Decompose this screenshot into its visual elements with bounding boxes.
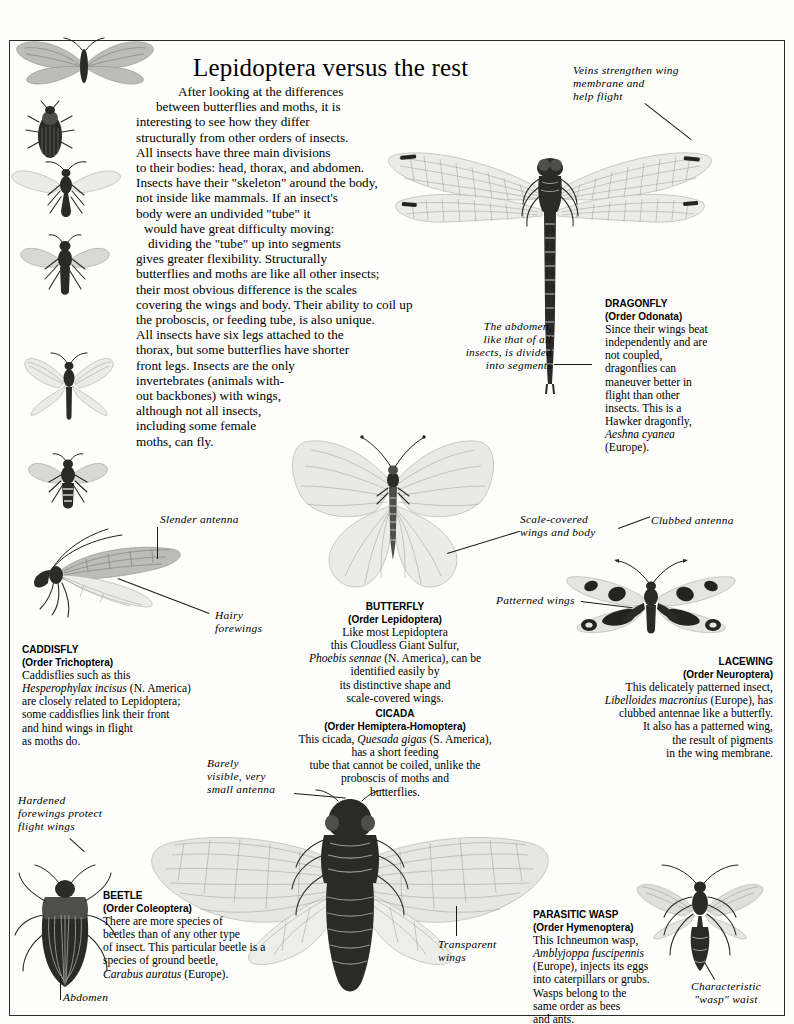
caption-dragonfly-species: Aeshna cyanea bbox=[605, 428, 675, 441]
intro-line: not inside like mammals. If an insect's bbox=[136, 190, 446, 205]
intro-line: including some female bbox=[136, 418, 446, 433]
specimen-strip-wasp bbox=[16, 160, 116, 230]
annotation-abdomen-line2: like that of all bbox=[440, 333, 552, 346]
specimen-strip-bee bbox=[28, 450, 108, 520]
annotation-slender-antenna: Slender antenna bbox=[160, 513, 310, 526]
caption-beetle-order: (Order Coleoptera) bbox=[103, 902, 293, 915]
intro-line: would have great difficulty moving: bbox=[136, 221, 446, 236]
caption-butterfly-species: Phoebis sennae bbox=[309, 652, 381, 665]
caption-lacewing-species: Libelloides macronius bbox=[605, 694, 708, 707]
annotation-clubbed-antenna: Clubbed antenna bbox=[651, 514, 794, 527]
intro-line: out backbones) with wings, bbox=[136, 388, 446, 403]
intro-line: dividing the "tube" up into segments bbox=[136, 236, 446, 251]
caption-beetle: BEETLE (Order Coleoptera) There are more… bbox=[103, 889, 293, 981]
intro-line: interesting to see how they differ bbox=[136, 114, 446, 129]
intro-line: between butterflies and moths, it is bbox=[136, 99, 446, 114]
annotation-barely-visible-antenna: Barely visible, very small antenna bbox=[207, 757, 327, 796]
intro-line: All insects have six legs attached to th… bbox=[136, 327, 446, 342]
caption-butterfly: BUTTERFLY (Order Lepidoptera) Like most … bbox=[283, 600, 507, 705]
annotation-hardened-forewings: Hardened forewings protect flight wings bbox=[18, 794, 138, 833]
specimen-strip-fly bbox=[20, 230, 110, 305]
intro-line: thorax, but some butterflies have shorte… bbox=[136, 342, 446, 357]
intro-line: invertebrates (animals with- bbox=[136, 373, 446, 388]
specimen-strip-lacewing-small bbox=[22, 345, 117, 435]
intro-line: body were an undivided "tube" it bbox=[136, 206, 446, 221]
intro-line: covering the wings and body. Their abili… bbox=[136, 297, 446, 312]
caddisfly-illustration bbox=[30, 520, 220, 645]
annotation-scale-covered-line1: Scale-covered bbox=[520, 513, 670, 526]
intro-line: although not all insects, bbox=[136, 403, 446, 418]
annotation-abdomen-line1: The abdomen, bbox=[440, 320, 552, 333]
beetle-illustration bbox=[20, 855, 110, 1000]
annotation-abdomen-line3: insects, is divided bbox=[440, 346, 552, 359]
caption-caddisfly-order: (Order Trichoptera) bbox=[22, 656, 237, 669]
caption-dragonfly-name: DRAGONFLY bbox=[605, 297, 710, 310]
caption-dragonfly-order: (Order Odonata) bbox=[605, 310, 710, 323]
annotation-veins: Veins strengthen wing membrane and help … bbox=[573, 64, 713, 103]
intro-line: gives greater flexibility. Structurally bbox=[136, 251, 446, 266]
intro-line: butterflies and moths are like all other… bbox=[136, 266, 446, 281]
caption-butterfly-order: (Order Lepidoptera) bbox=[283, 613, 507, 626]
caption-beetle-species: Carabus auratus bbox=[103, 968, 181, 981]
intro-line: to their bodies: head, thorax, and abdom… bbox=[136, 160, 446, 175]
annotation-veins-line3: help flight bbox=[573, 90, 713, 103]
caption-cicada-order: (Order Hemiptera-Homoptera) bbox=[275, 720, 515, 733]
annotation-veins-line1: Veins strengthen wing bbox=[573, 64, 713, 77]
caption-cicada-name: CICADA bbox=[275, 707, 515, 720]
intro-line: the proboscis, or feeding tube, is also … bbox=[136, 312, 446, 327]
caption-butterfly-name: BUTTERFLY bbox=[283, 600, 507, 613]
page-title: Lepidoptera versus the rest bbox=[193, 54, 523, 82]
caption-lacewing-name: LACEWING bbox=[575, 655, 773, 668]
intro-line: their most obvious difference is the sca… bbox=[136, 282, 446, 297]
caption-wasp-species: Amblyjoppa fuscipennis bbox=[533, 947, 644, 960]
annotation-abdomen-line4: into segments bbox=[440, 359, 552, 372]
leader-line-abdomen bbox=[60, 976, 61, 1000]
annotation-scale-covered-line2: wings and body bbox=[520, 526, 670, 539]
annotation-transparent-wings: Transparent wings bbox=[438, 938, 538, 964]
caption-lacewing: LACEWING (Order Neuroptera) This delicat… bbox=[575, 655, 773, 760]
intro-line: All insects have three main divisions bbox=[136, 145, 446, 160]
annotation-patterned-wings: Patterned wings bbox=[496, 594, 606, 607]
intro-paragraph: After looking at the differencesbetween … bbox=[136, 84, 446, 449]
caption-wasp-order: (Order Hymenoptera) bbox=[533, 921, 723, 934]
caption-wasp: PARASITIC WASP (Order Hymenoptera) This … bbox=[533, 908, 723, 1024]
leader-line-transparent-wings bbox=[456, 906, 457, 936]
caption-lacewing-order: (Order Neuroptera) bbox=[575, 668, 773, 681]
caption-caddisfly-name: CADDISFLY bbox=[22, 643, 237, 656]
annotation-veins-line2: membrane and bbox=[573, 77, 713, 90]
annotation-wasp-waist: Characteristic "wasp" waist bbox=[666, 980, 786, 1006]
intro-line: After looking at the differences bbox=[136, 84, 446, 99]
intro-line: Insects have their "skeleton" around the… bbox=[136, 175, 446, 190]
intro-line: structurally from other orders of insect… bbox=[136, 130, 446, 145]
leader-line-abdomen-segments bbox=[554, 364, 592, 365]
caption-caddisfly-species: Hesperophylax incisus bbox=[22, 682, 127, 695]
annotation-abdomen-segments: The abdomen, like that of all insects, i… bbox=[440, 320, 552, 372]
caption-cicada-species: Quesada gigas bbox=[357, 733, 426, 746]
leader-line-hardened-forewings bbox=[69, 838, 85, 852]
caption-wasp-name: PARASITIC WASP bbox=[533, 908, 723, 921]
caption-beetle-name: BEETLE bbox=[103, 889, 293, 902]
caption-caddisfly: CADDISFLY (Order Trichoptera) Caddisflie… bbox=[22, 643, 237, 748]
annotation-abdomen: Abdomen bbox=[63, 991, 163, 1004]
leader-line-slender-antenna bbox=[157, 527, 158, 559]
intro-line: front legs. Insects are the only bbox=[136, 358, 446, 373]
caption-dragonfly: DRAGONFLY (Order Odonata) Since their wi… bbox=[605, 297, 710, 454]
intro-line: moths, can fly. bbox=[136, 434, 446, 449]
specimen-strip-beetle-small bbox=[20, 105, 80, 163]
